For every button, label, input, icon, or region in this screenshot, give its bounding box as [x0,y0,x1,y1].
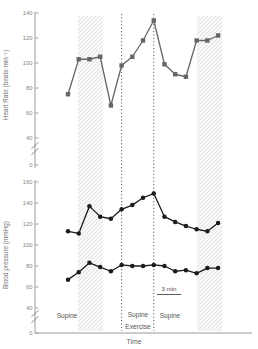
systolic-pressure-point [130,203,135,208]
heart-rate-point [77,57,81,61]
y-tick-label: 80 [26,263,32,269]
heart-rate-point [109,103,113,107]
systolic-pressure-point [66,229,71,234]
systolic-pressure-point [152,191,157,196]
y-tick-label: 60 [26,284,32,290]
systolic-pressure-point [184,224,189,229]
diastolic-pressure-point [184,268,189,273]
phase-label-supine-exercise-line1: Supine [128,311,149,319]
y-tick-label: 100 [23,242,33,248]
diastolic-pressure-point [87,261,92,266]
heart-rate-point [141,38,145,42]
phase-label-supine-exercise-line2: Exercise [125,323,151,330]
heart-rate-point [87,57,91,61]
systolic-pressure-point [205,229,210,234]
systolic-pressure-point [119,207,124,212]
diastolic-pressure-point [216,266,221,271]
y-tick-zero-label: 0 [29,162,32,168]
figure-svg: 14012010080604001601401201008060400 Hear… [0,0,258,349]
systolic-pressure-point [194,227,199,232]
shaded-band-hatch [197,16,222,331]
heart-rate-point [173,72,177,76]
diastolic-pressure-point [205,266,210,271]
systolic-pressure-point [98,214,103,219]
y-tick-zero-label: 0 [29,330,32,336]
systolic-pressure-point [162,214,167,219]
y-tick-label: 140 [23,10,33,16]
heart-rate-point [66,92,70,96]
y-tick-label: 120 [23,221,33,227]
shaded-band-hatch [78,16,103,331]
y-tick-label: 40 [26,305,32,311]
diastolic-pressure-point [173,269,178,274]
y-tick-label: 100 [23,60,33,66]
heart-rate-point [98,55,102,59]
systolic-pressure-point [216,221,221,226]
y-tick-label: 140 [23,200,33,206]
diastolic-pressure-point [130,264,135,269]
systolic-pressure-point [173,220,178,225]
scalebar-label: 3 min [161,285,177,292]
diastolic-pressure-point [141,264,146,269]
systolic-pressure-point [76,231,81,236]
heart-rate-point [119,63,123,67]
dual-physiology-chart: 14012010080604001601401201008060400 Hear… [0,0,258,349]
systolic-pressure-point [141,196,146,201]
blood-pressure-y-axis-label: Blood pressure (mmHg) [2,221,10,289]
heart-rate-point [130,55,134,59]
diastolic-pressure-point [119,263,124,268]
diastolic-pressure-point [109,269,114,274]
systolic-pressure-point [87,204,92,209]
y-tick-label: 160 [23,179,33,185]
diastolic-pressure-point [194,271,199,276]
heart-rate-point [152,18,156,22]
y-tick-label: 60 [26,110,32,116]
heart-rate-point [216,33,220,37]
systolic-pressure-point [109,217,114,222]
phase-label-supine-1: Supine [57,312,78,320]
x-axis-label: Time [127,338,142,345]
diastolic-pressure-point [66,277,71,282]
heart-rate-point [162,62,166,66]
diastolic-pressure-point [76,270,81,275]
y-tick-label: 40 [26,135,32,141]
y-tick-label: 120 [23,35,33,41]
heart-rate-point [205,38,209,42]
diastolic-pressure-point [152,263,157,268]
diastolic-pressure-point [98,265,103,270]
diastolic-pressure-point [162,264,167,269]
heart-rate-point [194,38,198,42]
y-tick-label: 80 [26,85,32,91]
heart-rate-point [184,75,188,79]
supine-shading-bands [78,16,222,331]
phase-label-supine-2: Supine [160,312,181,320]
heart-rate-y-axis-label: Heart Rate (beats·min⁻¹) [2,50,10,120]
